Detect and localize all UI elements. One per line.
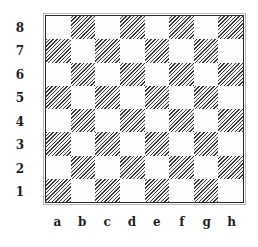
- square-b1[interactable]: [71, 179, 96, 202]
- chessboard: [45, 15, 244, 203]
- square-d7[interactable]: [120, 39, 145, 62]
- file-label-d: d: [128, 216, 136, 228]
- square-a3[interactable]: [46, 132, 71, 155]
- square-f7[interactable]: [169, 39, 194, 62]
- square-c4[interactable]: [95, 109, 120, 132]
- square-a6[interactable]: [46, 63, 71, 86]
- square-c1[interactable]: [95, 179, 120, 202]
- square-a7[interactable]: [46, 39, 71, 62]
- square-h7[interactable]: [218, 39, 243, 62]
- rank-label-5: 5: [16, 92, 24, 104]
- square-d6[interactable]: [120, 63, 145, 86]
- square-h5[interactable]: [218, 86, 243, 109]
- square-f3[interactable]: [169, 132, 194, 155]
- file-label-b: b: [78, 216, 86, 228]
- square-f8[interactable]: [169, 16, 194, 39]
- rank-label-8: 8: [16, 22, 24, 34]
- square-f5[interactable]: [169, 86, 194, 109]
- file-label-h: h: [227, 216, 236, 228]
- square-e6[interactable]: [145, 63, 170, 86]
- square-g5[interactable]: [194, 86, 219, 109]
- square-d2[interactable]: [120, 156, 145, 179]
- square-f2[interactable]: [169, 156, 194, 179]
- square-e7[interactable]: [145, 39, 170, 62]
- square-h2[interactable]: [218, 156, 243, 179]
- square-e8[interactable]: [145, 16, 170, 39]
- square-a5[interactable]: [46, 86, 71, 109]
- square-e1[interactable]: [145, 179, 170, 202]
- rank-label-4: 4: [16, 116, 24, 128]
- square-b6[interactable]: [71, 63, 96, 86]
- square-b4[interactable]: [71, 109, 96, 132]
- square-b8[interactable]: [71, 16, 96, 39]
- square-h1[interactable]: [218, 179, 243, 202]
- rank-label-1: 1: [16, 186, 24, 198]
- square-a2[interactable]: [46, 156, 71, 179]
- square-d4[interactable]: [120, 109, 145, 132]
- square-g6[interactable]: [194, 63, 219, 86]
- file-label-a: a: [54, 216, 62, 228]
- square-f6[interactable]: [169, 63, 194, 86]
- square-d8[interactable]: [120, 16, 145, 39]
- square-g1[interactable]: [194, 179, 219, 202]
- square-g4[interactable]: [194, 109, 219, 132]
- file-label-f: f: [179, 216, 184, 228]
- square-h3[interactable]: [218, 132, 243, 155]
- file-label-e: e: [153, 216, 161, 228]
- square-c2[interactable]: [95, 156, 120, 179]
- square-b5[interactable]: [71, 86, 96, 109]
- square-c5[interactable]: [95, 86, 120, 109]
- square-h4[interactable]: [218, 109, 243, 132]
- square-h6[interactable]: [218, 63, 243, 86]
- square-f4[interactable]: [169, 109, 194, 132]
- square-h8[interactable]: [218, 16, 243, 39]
- square-g7[interactable]: [194, 39, 219, 62]
- square-f1[interactable]: [169, 179, 194, 202]
- square-e4[interactable]: [145, 109, 170, 132]
- square-b3[interactable]: [71, 132, 96, 155]
- square-g2[interactable]: [194, 156, 219, 179]
- square-b7[interactable]: [71, 39, 96, 62]
- square-g3[interactable]: [194, 132, 219, 155]
- square-a4[interactable]: [46, 109, 71, 132]
- square-c7[interactable]: [95, 39, 120, 62]
- square-d1[interactable]: [120, 179, 145, 202]
- square-c6[interactable]: [95, 63, 120, 86]
- file-label-c: c: [104, 216, 111, 228]
- square-c8[interactable]: [95, 16, 120, 39]
- rank-label-7: 7: [16, 45, 24, 57]
- square-d3[interactable]: [120, 132, 145, 155]
- square-c3[interactable]: [95, 132, 120, 155]
- square-e3[interactable]: [145, 132, 170, 155]
- square-e2[interactable]: [145, 156, 170, 179]
- square-b2[interactable]: [71, 156, 96, 179]
- square-d5[interactable]: [120, 86, 145, 109]
- square-a1[interactable]: [46, 179, 71, 202]
- square-g8[interactable]: [194, 16, 219, 39]
- square-a8[interactable]: [46, 16, 71, 39]
- rank-label-2: 2: [16, 163, 24, 175]
- rank-label-6: 6: [16, 69, 24, 81]
- square-e5[interactable]: [145, 86, 170, 109]
- rank-label-3: 3: [16, 139, 24, 151]
- file-label-g: g: [202, 216, 210, 228]
